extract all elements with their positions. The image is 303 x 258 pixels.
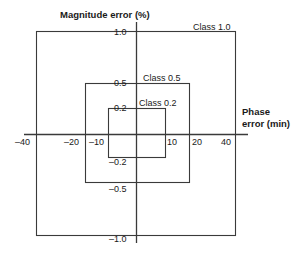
x-tick-label-neg-20: –20: [64, 137, 79, 147]
x-tick-label-20: 20: [192, 137, 202, 147]
y-tick-label-neg-0-5: –0.5: [109, 184, 127, 194]
x-tick-label-10: 10: [167, 137, 177, 147]
x-axis-title-line2: error (min): [242, 119, 290, 130]
x-tick-label-neg-10: –10: [89, 137, 104, 147]
x-tick-label-neg-40: –40: [15, 137, 30, 147]
x-axis-title-line1: Phase: [242, 107, 270, 118]
y-tick-label-0-5: 0.5: [114, 78, 127, 88]
y-tick-label-neg-0-2: –0.2: [109, 157, 127, 167]
x-tick-label-40: 40: [221, 137, 231, 147]
y-tick-label-1-0: 1.0: [114, 27, 127, 37]
y-axis-title: Magnitude error (%): [60, 10, 150, 21]
class-1-0-label: Class 1.0: [193, 22, 231, 32]
y-tick-label-neg-1-0: –1.0: [109, 234, 127, 244]
class-0-5-label: Class 0.5: [143, 73, 181, 83]
class-0-2-label: Class 0.2: [139, 98, 177, 108]
y-tick-label-0-2: 0.2: [114, 103, 127, 113]
accuracy-class-chart: Magnitude error (%) Phase error (min) 1.…: [0, 0, 303, 258]
